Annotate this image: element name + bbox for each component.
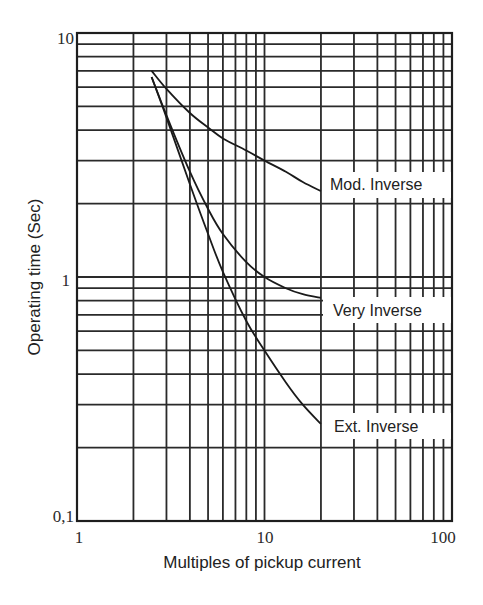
y-tick-0-1: 0,1 — [53, 507, 74, 526]
curve-label-mod: Mod. Inverse — [330, 176, 423, 193]
curve-label-ext: Ext. Inverse — [334, 418, 419, 435]
y-axis-title: Operating time (Sec) — [25, 199, 44, 356]
curve-label-very: Very Inverse — [333, 302, 422, 319]
label-very-inverse: Very Inverse — [323, 297, 451, 323]
label-mod-inverse: Mod. Inverse — [323, 172, 451, 198]
relay-curve-chart: Mod. Inverse Very Inverse Ext. Inverse 1… — [0, 0, 483, 605]
x-tick-10: 10 — [257, 528, 274, 547]
x-axis-title: Multiples of pickup current — [163, 553, 361, 572]
x-tick-100: 100 — [430, 528, 456, 547]
y-tick-10: 10 — [57, 29, 74, 48]
label-ext-inverse: Ext. Inverse — [323, 413, 451, 439]
y-tick-1: 1 — [62, 271, 71, 290]
x-tick-1: 1 — [75, 528, 84, 547]
